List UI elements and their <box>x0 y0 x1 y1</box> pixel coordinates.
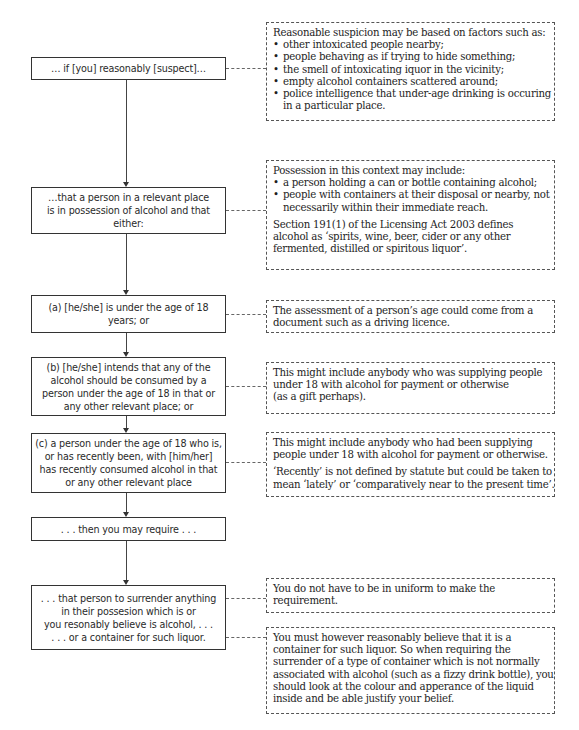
step-text: (c) a person under the age of 18 who is, <box>35 437 222 450</box>
step-text: . . . that person to surrender anything <box>41 592 216 605</box>
note-line: document such as a driving licence. <box>273 317 548 329</box>
note-line: You do not have to be in uniform to make… <box>273 583 548 595</box>
note-suspicion: Reasonable suspicion may be based on fac… <box>266 22 555 121</box>
link-recently-note <box>226 462 266 463</box>
definition-line: fermented, distilled or spiritous liquor… <box>273 243 548 255</box>
note-line: inside and be able justify your belief. <box>273 693 548 705</box>
step-text: you resonably believe is alcohol, . . . <box>44 618 213 631</box>
note-age: The assessment of a person’s age could c… <box>266 300 555 333</box>
step-text: or has recently been, with [him/her] <box>45 450 213 463</box>
bullet-list: other intoxicated people nearby; people … <box>273 39 548 100</box>
bullet-continuation: necessarily within their immediate reach… <box>273 202 548 214</box>
note-line: container for such liquor. So when requi… <box>273 644 548 656</box>
note-container: You must however reasonably believe that… <box>266 627 555 714</box>
bullet-item: other intoxicated people nearby; <box>273 39 548 51</box>
step-recently-consumed: (c) a person under the age of 18 who is,… <box>31 433 226 493</box>
step-suspect: … if [you] reasonably [suspect]… <box>31 57 226 80</box>
connector-3-4 <box>126 332 127 352</box>
bullet-continuation: in a particular place. <box>273 100 548 112</box>
definition-line: Section 191(1) of the Licensing Act 2003… <box>273 219 548 231</box>
connector-2-3 <box>126 233 127 290</box>
step-text: or any other relevant place <box>65 476 192 489</box>
step-text: in their possesion which is or <box>61 605 196 618</box>
note-intro: Possession in this context may include: <box>273 165 548 177</box>
step-text: …that a person in a relevant place <box>48 191 209 204</box>
note-line: ‘Recently’ is not defined by statute but… <box>273 466 548 478</box>
link-intends-note <box>226 386 266 387</box>
step-text: person under the age of 18 in that or <box>42 387 215 400</box>
step-text: either: <box>113 217 143 230</box>
note-line: (as a gift perhaps). <box>273 391 548 403</box>
bullet-item: people behaving as if trying to hide som… <box>273 51 548 63</box>
connector-4-5 <box>126 415 127 428</box>
connector-5-6 <box>126 492 127 512</box>
step-require: . . . then you may require . . . <box>31 517 226 541</box>
note-possession: Possession in this context may include: … <box>266 160 555 270</box>
link-container-note <box>226 637 266 638</box>
link-uniform-note <box>226 598 266 599</box>
link-suspect-note <box>226 68 266 69</box>
step-text: years; or <box>108 314 149 327</box>
bullet-list: a person holding a can or bottle contain… <box>273 177 548 201</box>
step-possession: …that a person in a relevant place is in… <box>31 187 226 234</box>
step-text: (a) [he/she] is under the age of 18 <box>49 301 209 314</box>
note-line: people under 18 with alcohol for payment… <box>273 449 548 461</box>
step-text: alcohol should be consumed by a <box>51 374 207 387</box>
note-line: under 18 with alcohol for payment or oth… <box>273 379 548 391</box>
step-text: . . . then you may require . . . <box>61 523 196 536</box>
bullet-item: the smell of intoxicating iquor in the v… <box>273 64 548 76</box>
note-line: This might include anybody who was suppl… <box>273 367 548 379</box>
step-text: … if [you] reasonably [suspect]… <box>51 62 206 75</box>
step-text: any other relevant place; or <box>64 400 194 413</box>
note-line: This might include anybody who had been … <box>273 437 548 449</box>
connector-6-7 <box>126 540 127 580</box>
step-text: . . . or a container for such liquor. <box>51 631 205 644</box>
note-line: surrender of a type of container which i… <box>273 656 548 668</box>
bullet-item: people with containers at their disposal… <box>273 189 548 201</box>
link-possession-note <box>226 210 266 211</box>
bullet-item: police intelligence that under-age drink… <box>273 88 548 100</box>
step-text: is in possession of alcohol and that <box>47 204 210 217</box>
bullet-item: a person holding a can or bottle contain… <box>273 177 548 189</box>
note-supplying-was: This might include anybody who was suppl… <box>266 362 555 414</box>
bullet-item: empty alcohol containers scattered aroun… <box>273 76 548 88</box>
note-intro: Reasonable suspicion may be based on fac… <box>273 27 548 39</box>
step-under-18: (a) [he/she] is under the age of 18 year… <box>31 295 226 333</box>
note-line: should look at the colour and apperance … <box>273 681 548 693</box>
definition-line: alcohol as ‘spirits, wine, beer, cider o… <box>273 231 548 243</box>
step-text: (b) [he/she] intends that any of the <box>47 361 211 374</box>
step-surrender: . . . that person to surrender anything … <box>31 585 226 650</box>
connector-1-2 <box>126 79 127 182</box>
note-line: You must however reasonably believe that… <box>273 632 548 644</box>
note-uniform: You do not have to be in uniform to make… <box>266 578 555 613</box>
note-supplying-had: This might include anybody who had been … <box>266 432 555 497</box>
step-intends: (b) [he/she] intends that any of the alc… <box>31 357 226 416</box>
note-line: mean ‘lately’ or ‘comparatively near to … <box>273 479 548 491</box>
note-line: The assessment of a person’s age could c… <box>273 305 548 317</box>
note-line: requirement. <box>273 595 548 607</box>
step-text: has recently consumed alcohol in that <box>40 463 218 476</box>
link-age-note <box>226 314 266 315</box>
note-line: associated with alcohol (such as a fizzy… <box>273 669 548 681</box>
